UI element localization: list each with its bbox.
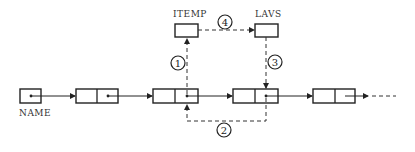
step-2-number: 2 (221, 125, 227, 136)
step-3-marker: 3 (268, 55, 282, 69)
name-label: NAME (19, 108, 51, 118)
step-1-marker: 1 (171, 56, 185, 70)
step-4-number: 4 (222, 17, 228, 28)
linked-list-diagram: NAME ITEMP LAVS 1 (0, 0, 415, 152)
itemp-label: ITEMP (173, 9, 207, 19)
step-2-marker: 2 (217, 123, 231, 137)
lavs-box (255, 24, 278, 37)
lavs-label: LAVS (255, 9, 282, 19)
step-3-number: 3 (272, 57, 278, 68)
step-1-number: 1 (175, 58, 181, 69)
itemp-box (175, 24, 198, 37)
step-4-marker: 4 (218, 15, 232, 29)
